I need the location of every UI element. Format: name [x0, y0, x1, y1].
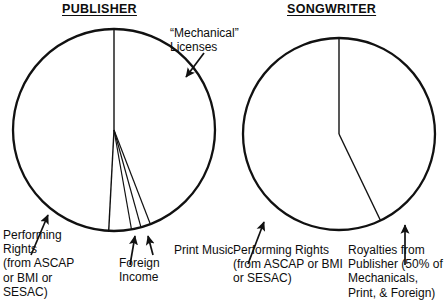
diagram-canvas: PUBLISHER SONGWRITER “Mechanical” Licens…	[0, 0, 448, 301]
label-print-music: Print Music	[174, 243, 233, 257]
label-royalties-from-publisher: Royalties from Publisher (50% of Mechani…	[348, 243, 443, 300]
songwriter-pie	[243, 38, 435, 230]
callout-arrow-print-music	[148, 236, 153, 255]
label-performing-rights-songwriter: Performing Rights (from ASCAP or BMI or …	[233, 243, 343, 286]
label-performing-rights-publisher: Performing Rights (from ASCAP or BMI or …	[3, 228, 74, 299]
panel-title-songwriter: SONGWRITER	[287, 2, 376, 16]
label-mechanical-licenses: “Mechanical” Licenses	[170, 26, 239, 54]
publisher-pie	[13, 29, 215, 231]
label-foreign-income: Foreign Income	[119, 256, 160, 284]
panel-title-publisher: PUBLISHER	[62, 2, 137, 16]
